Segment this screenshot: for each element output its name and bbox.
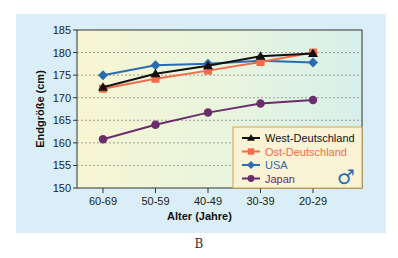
x-tick-label: 30-39 [246, 195, 274, 207]
legend-item-label: USA [265, 159, 288, 171]
x-tick-label: 50-59 [141, 195, 169, 207]
legend: West-DeutschlandOst-DeutschlandUSAJapan♂ [233, 127, 362, 189]
x-axis-label: Alter (Jahre) [167, 210, 232, 222]
x-tick-label: 60-69 [89, 195, 117, 207]
legend-item-label: West-Deutschland [265, 132, 355, 144]
y-tick-label: 165 [53, 114, 71, 126]
x-tick-label: 20-29 [299, 195, 327, 207]
y-tick-label: 175 [53, 69, 71, 81]
male-symbol-icon: ♂ [337, 165, 355, 189]
y-tick-label: 170 [53, 92, 71, 104]
legend-item-label: Ost-Deutschland [265, 146, 347, 158]
figure-caption: B [0, 237, 398, 251]
y-tick-label: 185 [53, 24, 71, 36]
y-tick-label: 155 [53, 159, 71, 171]
y-tick-label: 150 [53, 182, 71, 194]
y-tick-label: 160 [53, 137, 71, 149]
line-chart: 15015516016517017518018560-6950-5940-493… [0, 0, 398, 258]
legend-item-label: Japan [265, 173, 295, 185]
y-tick-label: 180 [53, 47, 71, 59]
x-tick-label: 40-49 [194, 195, 222, 207]
y-axis-label: Endgröße (cm) [34, 70, 46, 148]
